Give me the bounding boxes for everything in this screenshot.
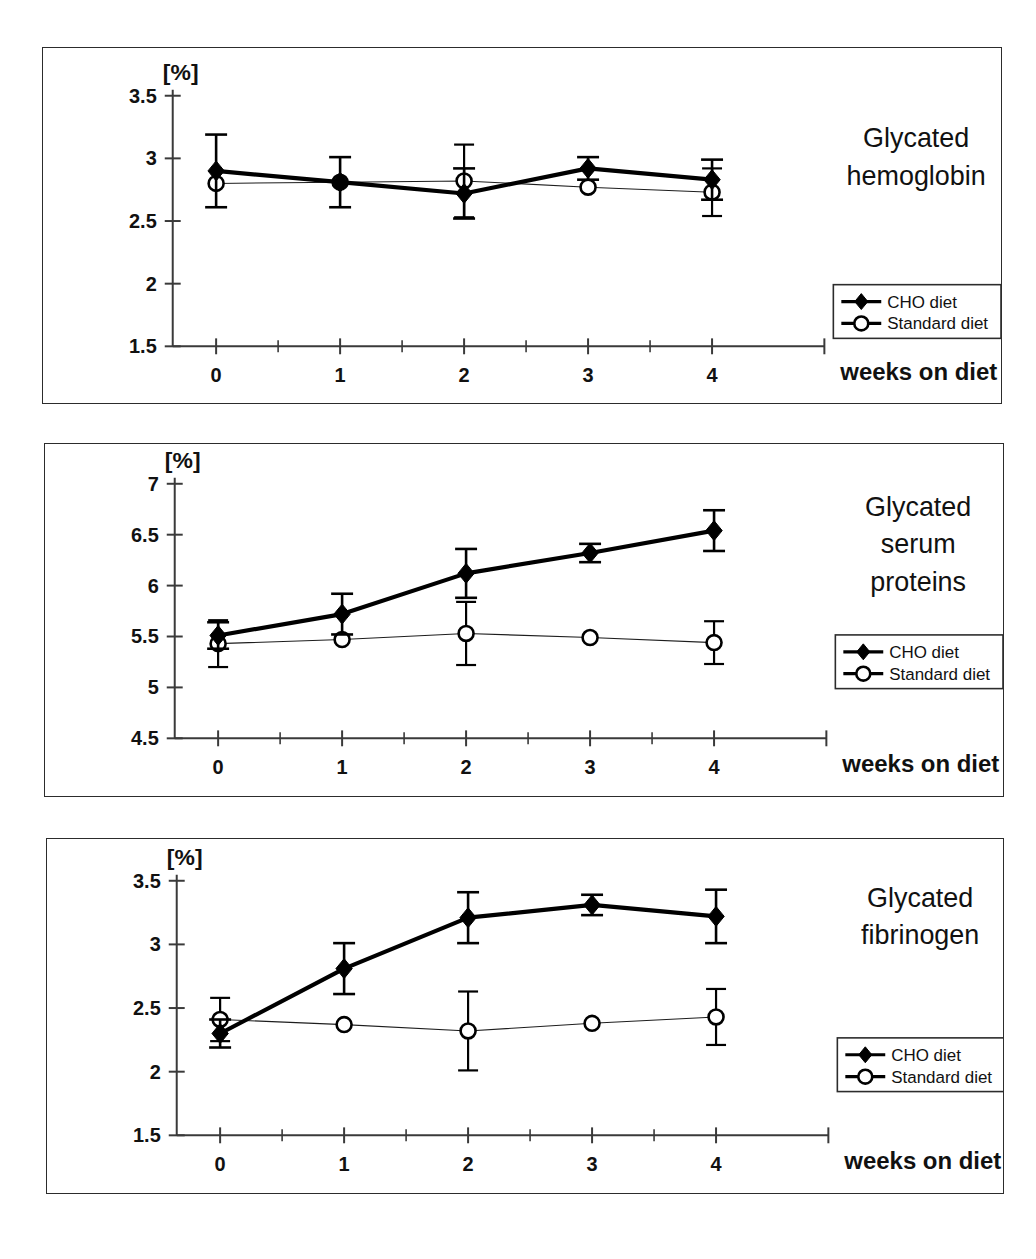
x-tick-label-1: 1 — [337, 756, 348, 778]
legend-label-cho-diet: CHO diet — [891, 1046, 961, 1065]
legend-label-standard-diet: Standard diet — [891, 1068, 992, 1087]
x-tick-label-3: 3 — [587, 1153, 598, 1175]
y-tick-label-3: 6 — [148, 575, 159, 597]
y-tick-label-2: 5.5 — [131, 625, 159, 647]
data-point-marker-circle — [585, 1016, 600, 1031]
panel-title-group: Glycatedfibrinogen — [861, 883, 979, 951]
x-axis-name: weeks on diet — [843, 1147, 1001, 1174]
legend-marker-circle — [858, 1070, 872, 1084]
data-point-marker-circle — [337, 1017, 352, 1032]
data-point-marker-diamond — [334, 604, 350, 624]
x-tick-label-4: 4 — [711, 1153, 722, 1175]
y-tick-label-3: 3 — [146, 147, 157, 169]
x-tick-label-3: 3 — [585, 756, 596, 778]
legend[interactable]: CHO dietStandard diet — [835, 635, 1003, 689]
data-point-marker-diamond — [336, 959, 352, 979]
chart-svg-3: 1.522.533.5[%]01234weeks on dietGlycated… — [47, 839, 1003, 1193]
y-tick-label-5: 7 — [148, 473, 159, 495]
x-tick-label-0: 0 — [213, 756, 224, 778]
panel-title-group: Glycatedhemoglobin — [847, 123, 986, 191]
panel-title-line-2: proteins — [870, 567, 966, 597]
y-tick-label-1: 5 — [148, 676, 159, 698]
chart-panel-glycated-hemoglobin: 1.522.533.5[%]01234weeks on dietGlycated… — [42, 47, 1002, 404]
panel-title-line-0: Glycated — [863, 123, 969, 153]
legend-marker-circle — [856, 667, 870, 681]
legend-label-cho-diet: CHO diet — [887, 293, 957, 312]
legend-label-cho-diet: CHO diet — [889, 643, 959, 662]
y-tick-label-4: 3.5 — [129, 85, 157, 107]
y-tick-label-2: 2.5 — [129, 210, 157, 232]
data-point-marker-circle — [709, 1009, 724, 1024]
x-tick-label-2: 2 — [463, 1153, 474, 1175]
x-tick-label-4: 4 — [707, 364, 718, 386]
data-point-marker-diamond — [708, 906, 724, 926]
x-tick-label-2: 2 — [459, 364, 470, 386]
y-unit-label: [%] — [165, 447, 201, 473]
data-point-marker-diamond — [582, 543, 598, 563]
y-tick-label-1: 2 — [150, 1061, 161, 1083]
data-point-marker-diamond — [580, 158, 596, 178]
series-standard-diet — [208, 602, 724, 667]
legend-label-standard-diet: Standard diet — [887, 314, 988, 333]
chart-panel-glycated-serum-proteins: 4.555.566.57[%]01234weeks on dietGlycate… — [44, 443, 1004, 797]
y-tick-label-1: 2 — [146, 273, 157, 295]
chart-svg-1: 1.522.533.5[%]01234weeks on dietGlycated… — [43, 48, 1001, 403]
data-point-marker-circle — [459, 626, 474, 641]
panel-title-line-0: Glycated — [865, 492, 971, 522]
data-point-marker-circle — [583, 630, 598, 645]
x-tick-label-1: 1 — [339, 1153, 350, 1175]
y-tick-label-0: 4.5 — [131, 727, 159, 749]
panel-title-line-0: Glycated — [867, 883, 973, 913]
chart-panel-glycated-fibrinogen: 1.522.533.5[%]01234weeks on dietGlycated… — [46, 838, 1004, 1194]
panel-title-line-1: fibrinogen — [861, 920, 979, 950]
y-tick-label-4: 6.5 — [131, 524, 159, 546]
y-tick-label-4: 3.5 — [133, 870, 161, 892]
x-tick-label-4: 4 — [709, 756, 720, 778]
y-unit-label: [%] — [163, 59, 199, 85]
figure-three-panel-diet-study: 1.522.533.5[%]01234weeks on dietGlycated… — [0, 0, 1036, 1259]
y-tick-label-0: 1.5 — [129, 335, 157, 357]
legend[interactable]: CHO dietStandard diet — [833, 285, 1001, 339]
data-point-marker-diamond — [584, 895, 600, 915]
x-axis-name: weeks on diet — [839, 358, 997, 385]
data-point-marker-diamond — [706, 521, 722, 541]
x-axis-name: weeks on diet — [841, 750, 999, 777]
panel-title-line-1: serum — [881, 529, 956, 559]
data-point-marker-circle — [461, 1023, 476, 1038]
panel-title-line-1: hemoglobin — [847, 161, 986, 191]
panel-title-group: Glycatedserumproteins — [865, 492, 971, 598]
x-tick-label-3: 3 — [583, 364, 594, 386]
legend-marker-circle — [854, 316, 868, 330]
data-point-marker-diamond — [458, 563, 474, 583]
x-tick-label-2: 2 — [461, 756, 472, 778]
data-point-marker-diamond — [460, 908, 476, 928]
data-point-marker-diamond — [332, 172, 348, 192]
y-tick-label-2: 2.5 — [133, 997, 161, 1019]
y-tick-label-3: 3 — [150, 933, 161, 955]
legend-label-standard-diet: Standard diet — [889, 665, 990, 684]
x-tick-label-0: 0 — [215, 1153, 226, 1175]
data-point-marker-circle — [581, 180, 596, 195]
x-tick-label-1: 1 — [335, 364, 346, 386]
y-unit-label: [%] — [167, 844, 203, 870]
series-standard-diet — [210, 989, 726, 1070]
legend[interactable]: CHO dietStandard diet — [837, 1038, 1003, 1092]
x-tick-label-0: 0 — [211, 364, 222, 386]
chart-svg-2: 4.555.566.57[%]01234weeks on dietGlycate… — [45, 444, 1003, 796]
data-point-marker-circle — [707, 635, 722, 650]
y-tick-label-0: 1.5 — [133, 1124, 161, 1146]
